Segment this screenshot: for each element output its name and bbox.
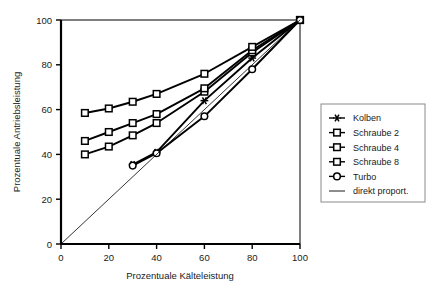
chart-legend: KolbenSchraube 2Schraube 4Schraube 8Turb… bbox=[321, 104, 425, 202]
x-tick-label: 100 bbox=[292, 252, 308, 263]
series-schraube-8-square-marker bbox=[82, 110, 89, 117]
y-tick-label: 20 bbox=[41, 194, 52, 205]
series-turbo-circle-marker bbox=[153, 150, 160, 157]
y-tick-label: 40 bbox=[41, 149, 52, 160]
legend-label-schraube-8: Schraube 8 bbox=[353, 157, 399, 167]
x-tick-label: 20 bbox=[104, 252, 115, 263]
series-turbo-circle-marker bbox=[201, 113, 208, 120]
legend-item-schraube-8[interactable]: Schraube 8 bbox=[324, 154, 418, 168]
legend-label-schraube-4: Schraube 4 bbox=[353, 143, 399, 153]
series-turbo-circle-marker bbox=[129, 162, 136, 169]
series-schraube-8-square-marker bbox=[249, 44, 256, 51]
legend-label-direkt-proport: direkt proport. bbox=[353, 186, 409, 196]
legend-swatch-turbo-circle-marker bbox=[334, 173, 341, 180]
series-schraube-4-square-marker bbox=[106, 129, 113, 136]
legend-item-schraube-2[interactable]: Schraube 2 bbox=[324, 125, 418, 139]
chart-svg: 020406080100 020406080100 Prozentuale Kä… bbox=[0, 0, 433, 300]
series-schraube-2-square-marker bbox=[153, 120, 160, 127]
legend-swatch-schraube-2-square-marker bbox=[334, 129, 341, 136]
series-schraube-4-square-marker bbox=[153, 111, 160, 118]
legend-item-turbo[interactable]: Turbo bbox=[324, 169, 418, 183]
series-schraube-4-square-marker bbox=[129, 120, 136, 127]
y-tick-label: 0 bbox=[47, 239, 52, 250]
legend-label-turbo: Turbo bbox=[353, 172, 376, 182]
series-schraube-8-square-marker bbox=[201, 70, 208, 77]
x-tick-label: 0 bbox=[58, 252, 63, 263]
series-schraube-4-square-marker bbox=[201, 85, 208, 92]
y-tick-label: 80 bbox=[41, 59, 52, 70]
y-axis-title: Prozentuale Antriebsleistung bbox=[11, 72, 22, 192]
series-schraube-8-square-marker bbox=[106, 105, 113, 112]
series-schraube-2-square-marker bbox=[82, 151, 89, 158]
series-schraube-8-square-marker bbox=[129, 98, 136, 105]
x-axis-title: Prozentuale Kälteleistung bbox=[126, 270, 234, 281]
y-tick-label: 60 bbox=[41, 104, 52, 115]
legend-swatch-schraube-4-square-marker bbox=[334, 144, 341, 151]
chart-figure: 020406080100 020406080100 Prozentuale Kä… bbox=[0, 0, 433, 300]
x-tick-label: 60 bbox=[199, 252, 210, 263]
x-tick-label: 80 bbox=[247, 252, 258, 263]
legend-item-kolben[interactable]: Kolben bbox=[324, 111, 418, 125]
x-tick-label: 40 bbox=[151, 252, 162, 263]
legend-swatch-schraube-8-square-marker bbox=[334, 159, 341, 166]
legend-item-schraube-4[interactable]: Schraube 4 bbox=[324, 140, 418, 154]
series-schraube-8-square-marker bbox=[153, 91, 160, 98]
y-tick-label: 100 bbox=[36, 15, 52, 26]
legend-label-kolben: Kolben bbox=[353, 113, 381, 123]
legend-label-schraube-2: Schraube 2 bbox=[353, 128, 399, 138]
legend-item-direkt-proport[interactable]: direkt proport. bbox=[324, 184, 418, 198]
series-schraube-4-square-marker bbox=[82, 138, 89, 145]
series-schraube-2-square-marker bbox=[129, 132, 136, 139]
series-schraube-2-square-marker bbox=[106, 143, 113, 150]
